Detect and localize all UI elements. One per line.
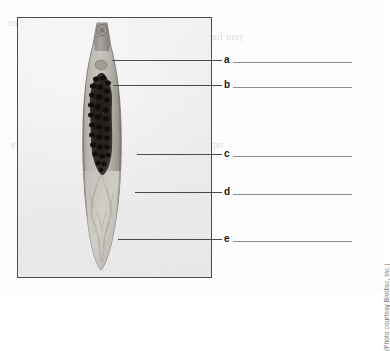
answer-blank-e[interactable] bbox=[233, 241, 352, 242]
fluke-specimen-image bbox=[70, 21, 132, 273]
photo-credit-text: (Photo courtesy Biodisc, Inc.) bbox=[383, 264, 390, 351]
label-letter-c: c bbox=[224, 149, 230, 159]
answer-blank-d[interactable] bbox=[233, 194, 352, 195]
label-letter-e: e bbox=[224, 234, 230, 244]
leader-line-c bbox=[137, 154, 222, 155]
leader-line-e bbox=[118, 239, 222, 240]
leader-line-a bbox=[112, 60, 222, 61]
label-letter-b: b bbox=[224, 80, 230, 90]
leader-line-d bbox=[135, 192, 222, 193]
ventral-sucker bbox=[95, 60, 107, 70]
answer-blank-a[interactable] bbox=[233, 62, 352, 63]
leader-line-b bbox=[113, 85, 222, 86]
label-letter-d: d bbox=[224, 187, 230, 197]
answer-blank-b[interactable] bbox=[233, 87, 352, 88]
answer-blank-c[interactable] bbox=[233, 156, 352, 157]
label-letter-a: a bbox=[224, 55, 230, 65]
